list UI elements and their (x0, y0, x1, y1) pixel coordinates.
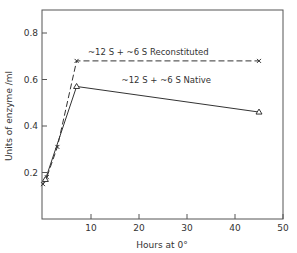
x-tick-label: 20 (133, 223, 145, 233)
y-tick-label: 0.6 (24, 75, 39, 85)
series-annotation: ~12 S + ~6 S Native (122, 75, 211, 85)
triangle-marker-icon (74, 83, 80, 88)
x-axis-ticks: 1020304050 (85, 214, 289, 233)
series-annotations: ~12 S + ~6 S Reconstituted~12 S + ~6 S N… (88, 47, 211, 85)
enzyme-line-chart: 0.20.40.60.8 1020304050 ~12 S + ~6 S Rec… (0, 0, 297, 253)
series-annotation: ~12 S + ~6 S Reconstituted (88, 47, 209, 57)
y-tick-label: 0.8 (24, 28, 39, 38)
y-axis-ticks: 0.20.40.60.8 (24, 28, 47, 178)
x-axis-label: Hours at 0° (136, 240, 187, 250)
x-tick-label: 50 (277, 223, 289, 233)
y-tick-label: 0.2 (24, 168, 38, 178)
y-tick-label: 0.4 (24, 121, 39, 131)
plot-frame (42, 10, 283, 219)
series-line (45, 86, 259, 179)
y-axis-label: Units of enzyme /ml (4, 71, 14, 161)
x-tick-label: 30 (181, 223, 193, 233)
x-tick-label: 10 (85, 223, 97, 233)
x-tick-label: 40 (229, 223, 241, 233)
